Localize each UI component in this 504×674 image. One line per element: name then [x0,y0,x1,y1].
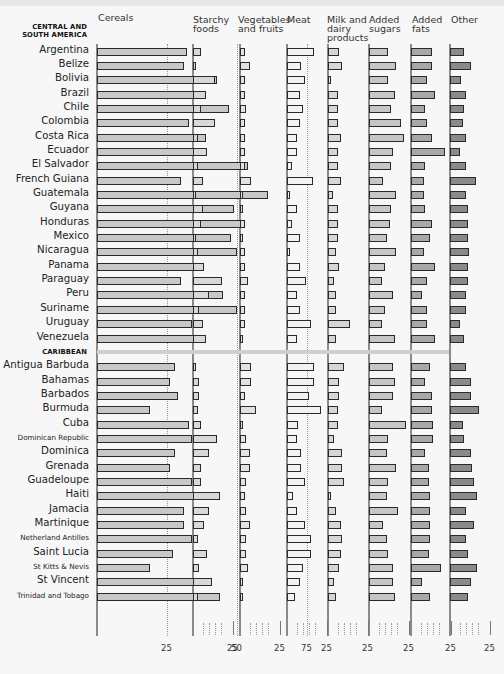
bar-fats [411,48,432,56]
bar-starchy [193,507,209,515]
bar-fats [411,76,427,84]
bar-veg [240,578,243,586]
minor-tick [203,623,204,635]
minor-tick [439,623,440,635]
bar-veg [240,91,245,99]
country-label: Colombia [41,115,89,127]
bar-starchy [193,134,198,142]
bar-starchy [193,205,203,213]
minor-tick [421,623,422,635]
bar-cereals [97,378,170,386]
bar-fats [411,449,425,457]
bar-milk [328,105,338,113]
minor-tick [427,623,428,635]
bar-fats [411,550,429,558]
bar-veg [240,478,246,486]
bar-meat [287,62,301,70]
bar-cereals [97,593,220,601]
bar-starchy [193,378,199,386]
bar-other [450,220,468,228]
country-label: Costa Rica [35,130,89,142]
bar-other [450,464,472,472]
bar-meat [287,507,297,515]
bar-veg [240,105,246,113]
country-label: Netherland Antilles [20,532,89,544]
bar-milk [328,378,339,386]
bar-milk [328,162,338,170]
minor-tick [356,623,357,635]
minor-tick-end [327,621,328,635]
bar-other [450,91,466,99]
bar-veg [240,449,250,457]
bar-fats [411,62,432,70]
bar-other [450,492,477,500]
bar-veg [240,335,243,343]
bar-sugars [369,478,388,486]
bar-veg [240,593,243,601]
bar-starchy [193,406,198,414]
bar-veg [240,62,250,70]
bar-sugars [369,449,387,457]
bar-milk [328,593,336,601]
bar-fats [411,564,441,572]
country-label: Brazil [61,87,89,99]
minor-tick-end [490,621,491,635]
bar-starchy [193,478,201,486]
bar-sugars [369,564,393,572]
bar-sugars [369,406,382,414]
bar-fats [411,119,427,127]
bar-fats [411,363,430,371]
bar-cereals [97,277,181,285]
country-label: Guatemala [33,187,89,199]
minor-tick [478,623,479,635]
bar-sugars [369,464,396,472]
bar-sugars [369,148,393,156]
bar-cereals [97,162,248,170]
minor-tick [221,623,222,635]
bar-starchy [193,277,222,285]
bar-sugars [369,421,406,429]
bar-veg [240,291,245,299]
bar-veg [240,435,246,443]
bar-veg [240,306,245,314]
bar-cereals [97,306,237,314]
bar-veg [240,550,246,558]
minor-tick [303,623,304,635]
bar-starchy [193,521,204,529]
tick-label: 25 [403,643,414,653]
bar-fats [411,220,432,228]
bar-sugars [369,119,401,127]
bar-fats [411,478,429,486]
bar-fats [411,91,435,99]
country-label: Burmuda [42,402,89,414]
bar-meat [287,248,290,256]
bar-starchy [193,263,204,271]
minor-tick [379,623,380,635]
tick-label: 25 [362,643,373,653]
bar-other [450,392,471,400]
bar-milk [328,578,334,586]
minor-tick [256,623,257,635]
bar-starchy [193,48,201,56]
minor-tick-end [368,621,369,635]
minor-tick-end [280,621,281,635]
bar-fats [411,593,430,601]
bar-cereals [97,392,178,400]
bar-other [450,277,468,285]
tick-label: 25 [227,643,238,653]
minor-tick-end [409,621,410,635]
bar-other [450,291,466,299]
minor-tick [397,623,398,635]
bar-other [450,593,468,601]
bar-veg [240,277,248,285]
region-label-caribbean: CARIBBEAN [0,349,87,357]
bar-meat [287,464,301,472]
bar-fats [411,205,425,213]
bar-fats [411,191,424,199]
bar-milk [328,363,344,371]
bar-veg [240,248,245,256]
bar-milk [328,406,338,414]
bar-milk [328,291,336,299]
column-header-cereals: Cereals [98,13,133,22]
bar-fats [411,277,427,285]
